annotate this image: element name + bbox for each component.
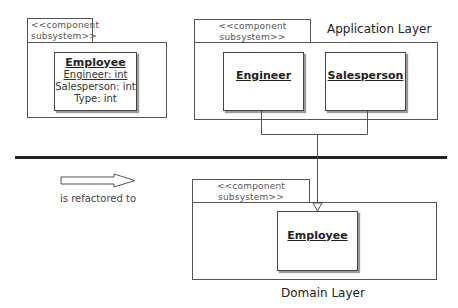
domain-layer-label: Domain Layer (281, 286, 365, 300)
domain-package-stereotype-tab: <<component subsystem>> (192, 179, 310, 203)
domain-employee-class[interactable]: Employee (277, 211, 358, 271)
refactor-arrow-icon (61, 174, 135, 187)
stereotype-line-1: <<component (193, 181, 309, 192)
refactor-caption: is refactored to (60, 193, 136, 204)
class-name: Employee (287, 229, 347, 242)
